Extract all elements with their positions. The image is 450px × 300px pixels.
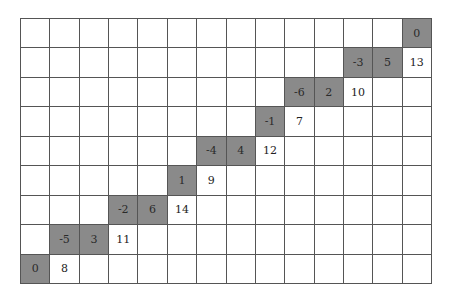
empty-grid-cell [403,107,432,136]
empty-grid-cell [109,19,138,48]
empty-grid-cell [344,225,373,254]
empty-grid-cell [80,48,109,77]
empty-grid-cell [285,225,314,254]
number-grid: 0-3513-6210-17-441219-2614-531108 [20,18,432,284]
shaded-grid-cell: 0 [21,255,50,284]
empty-grid-cell [109,107,138,136]
empty-grid-cell [197,107,226,136]
empty-grid-cell [227,196,256,225]
empty-grid-cell [227,19,256,48]
empty-grid-cell [21,166,50,195]
empty-grid-cell [138,137,167,166]
shaded-grid-cell: 1 [168,166,197,195]
empty-grid-cell [403,255,432,284]
empty-grid-cell [256,78,285,107]
empty-grid-cell [50,137,79,166]
empty-grid-cell [227,107,256,136]
empty-grid-cell [344,166,373,195]
grid-cell: 10 [344,78,373,107]
empty-grid-cell [80,196,109,225]
empty-grid-cell [197,255,226,284]
empty-grid-cell [285,137,314,166]
empty-grid-cell [256,166,285,195]
empty-grid-cell [285,19,314,48]
empty-grid-cell [197,78,226,107]
empty-grid-cell [403,78,432,107]
empty-grid-cell [138,48,167,77]
empty-grid-cell [168,19,197,48]
empty-grid-cell [50,196,79,225]
empty-grid-cell [109,255,138,284]
empty-grid-cell [256,48,285,77]
empty-grid-cell [285,48,314,77]
empty-grid-cell [403,196,432,225]
empty-grid-cell [227,255,256,284]
shaded-grid-cell: 3 [80,225,109,254]
shaded-grid-cell: 6 [138,196,167,225]
shaded-grid-cell: -4 [197,137,226,166]
empty-grid-cell [256,255,285,284]
empty-grid-cell [80,255,109,284]
shaded-grid-cell: 0 [403,19,432,48]
empty-grid-cell [285,196,314,225]
empty-grid-cell [138,78,167,107]
empty-grid-cell [21,19,50,48]
empty-grid-cell [21,196,50,225]
empty-grid-cell [285,166,314,195]
empty-grid-cell [138,255,167,284]
empty-grid-cell [21,78,50,107]
empty-grid-cell [315,137,344,166]
empty-grid-cell [315,107,344,136]
empty-grid-cell [373,255,402,284]
grid-cell: 13 [403,48,432,77]
empty-grid-cell [80,137,109,166]
grid-cell: 7 [285,107,314,136]
shaded-grid-cell: -6 [285,78,314,107]
empty-grid-cell [80,166,109,195]
empty-grid-cell [315,19,344,48]
empty-grid-cell [138,19,167,48]
empty-grid-cell [138,166,167,195]
empty-grid-cell [315,48,344,77]
grid-cell: 12 [256,137,285,166]
empty-grid-cell [168,107,197,136]
shaded-grid-cell: -1 [256,107,285,136]
empty-grid-cell [227,166,256,195]
empty-grid-cell [109,78,138,107]
empty-grid-cell [21,137,50,166]
empty-grid-cell [315,166,344,195]
empty-grid-cell [50,107,79,136]
empty-grid-cell [344,137,373,166]
empty-grid-cell [138,107,167,136]
empty-grid-cell [50,48,79,77]
shaded-grid-cell: -2 [109,196,138,225]
empty-grid-cell [373,137,402,166]
empty-grid-cell [168,48,197,77]
empty-grid-cell [21,225,50,254]
empty-grid-cell [197,196,226,225]
empty-grid-cell [109,48,138,77]
empty-grid-cell [80,78,109,107]
empty-grid-cell [373,107,402,136]
empty-grid-cell [197,225,226,254]
shaded-grid-cell: 4 [227,137,256,166]
empty-grid-cell [227,48,256,77]
empty-grid-cell [50,19,79,48]
empty-grid-cell [227,78,256,107]
empty-grid-cell [344,107,373,136]
shaded-grid-cell: 2 [315,78,344,107]
empty-grid-cell [109,137,138,166]
empty-grid-cell [138,225,167,254]
empty-grid-cell [256,225,285,254]
empty-grid-cell [168,137,197,166]
empty-grid-cell [315,196,344,225]
empty-grid-cell [256,196,285,225]
empty-grid-cell [21,107,50,136]
empty-grid-cell [373,225,402,254]
empty-grid-cell [403,225,432,254]
shaded-grid-cell: -5 [50,225,79,254]
empty-grid-cell [50,166,79,195]
empty-grid-cell [168,255,197,284]
grid-cell: 14 [168,196,197,225]
grid-cell: 9 [197,166,226,195]
